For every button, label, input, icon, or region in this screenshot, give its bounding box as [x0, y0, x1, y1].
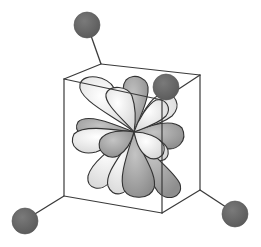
ligand-sphere-top-right — [153, 74, 179, 100]
ligand-sphere-bottom-right — [222, 201, 248, 227]
ligand-sphere-top-left — [74, 12, 100, 38]
ligand-sphere-bottom-left — [12, 208, 38, 234]
tetrahedral-field-diagram — [0, 0, 261, 247]
